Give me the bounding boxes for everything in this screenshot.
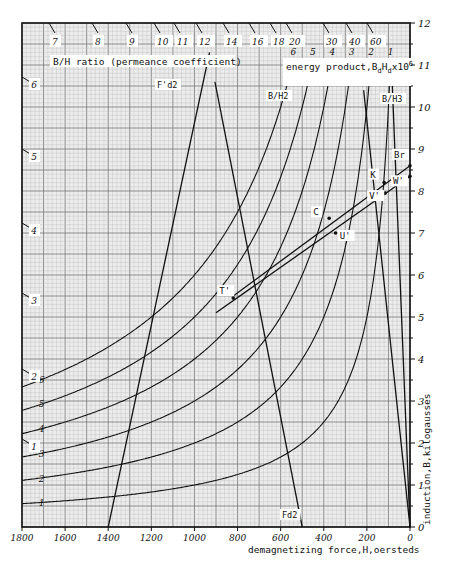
energy-curve-label-top: 3 [349,47,355,57]
energy-curve-label-top: 5 [310,47,316,57]
x-tick-label: 600 [272,533,289,543]
x-tick-label: 1400 [97,533,120,543]
line-annotation: B/H3 [382,94,402,104]
x-tick-label: 400 [314,533,332,543]
bh-ratio-top-label: 12 [199,37,211,47]
point-label-W': W' [393,176,404,186]
x-tick-label: 200 [357,533,375,543]
energy-curve-label-top: 6 [291,47,297,57]
point-label-U': U' [340,231,351,241]
bh-ratio-top-label: 14 [226,37,238,47]
x-tick-label: 1600 [54,533,77,543]
bh-ratio-top-label: 60 [370,37,382,47]
x-tick-label: 1000 [183,533,206,543]
energy-curve-label-left: 5 [39,399,45,409]
bh-ratio-label: 1 [31,442,37,452]
point-label-V': V' [369,191,380,201]
bh-ratio-top-label: 11 [177,37,188,47]
y-tick-label: 12 [418,18,431,29]
x-tick-label: 800 [229,533,246,543]
point-marker [408,164,412,168]
y-tick-label: 9 [418,144,425,155]
energy-product-title-box: energy product,BdHdx106 [283,58,413,86]
bh-ratio-top-label: 18 [273,37,285,47]
bh-ratio-top-label: 20 [288,37,301,47]
point-label-K: K [370,170,376,180]
x-axis-label: demagnetizing force,H,oersteds [248,544,420,555]
energy-curve-label-left: 1 [39,498,45,508]
graph-paper-grid [22,23,410,527]
bh-ratio-label: 6 [31,80,37,90]
y-tick-label: 10 [418,102,431,113]
line-annotation: B/H2 [268,91,288,101]
energy-curve-label-top: 2 [367,47,374,57]
point-marker [382,181,386,185]
bh-ratio-top-label: 8 [95,37,101,47]
y-tick-label: 8 [418,186,424,197]
y-tick-label: 6 [418,270,425,281]
point-marker [408,175,412,179]
bh-ratio-top-label: 9 [129,37,135,47]
y-axis-label: induction,B,kilogausses [421,393,432,525]
demagnetization-chart: 112233445566 180016001400120010008006004… [0,0,459,576]
point-label-T': T' [219,286,230,296]
y-tick-label: 7 [418,228,425,239]
bh-ratio-title: B/H ratio (permeance coefficient) [53,56,242,67]
y-tick-label: 11 [418,60,431,71]
bh-ratio-title-box: B/H ratio (permeance coefficient) [50,55,242,67]
energy-curve-label-top: 1 [388,47,394,57]
energy-curve-label-top: 4 [328,47,335,57]
point-marker [334,231,338,235]
x-tick-label: 1200 [140,533,163,543]
point-label-C: C [313,207,318,217]
line-annotation: Fd2 [282,510,297,520]
bh-ratio-top-label: 10 [157,37,169,47]
y-tick-label: 4 [417,354,424,365]
bh-ratio-label: 3 [31,296,37,306]
bh-ratio-top-label: 7 [52,37,58,47]
energy-curve-label-left: 2 [38,474,45,484]
line-annotation: F'd2 [157,80,177,90]
point-marker [327,217,331,221]
bh-ratio-top-label: 16 [252,37,264,47]
bh-ratio-top-label: 30 [326,37,338,47]
x-tick-label: 1800 [11,533,34,543]
bh-ratio-top-label: 40 [348,37,361,47]
bh-ratio-label: 5 [31,152,37,162]
x-tick-label: 0 [407,533,413,543]
point-marker [231,296,235,300]
bh-ratio-label: 2 [30,372,37,382]
y-tick-label: 5 [418,312,424,323]
bh-ratio-label: 4 [30,226,37,236]
energy-curve-label-left: 4 [38,424,45,434]
point-label-Br: Br [394,150,405,160]
